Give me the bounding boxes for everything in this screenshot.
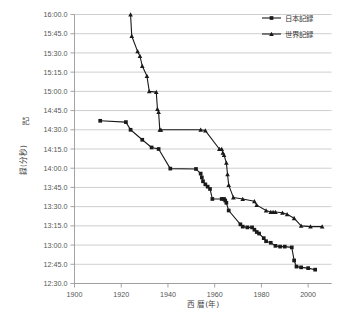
x-tick-label-4: 1980 xyxy=(253,290,269,299)
gridlines xyxy=(75,15,332,284)
data-point-0-6 xyxy=(168,167,172,171)
data-point-0-31 xyxy=(278,245,282,249)
y-tick-label-4: 15:00.0 xyxy=(44,87,68,96)
y-tick-labels: 16:00.015:45.015:30.015:15.015:00.014:45… xyxy=(44,10,68,288)
data-point-0-8 xyxy=(199,172,203,176)
data-point-0-32 xyxy=(283,245,287,249)
data-point-0-28 xyxy=(264,239,268,243)
y-tick-label-6: 14:30.0 xyxy=(44,125,68,134)
y-tick-label-13: 12:45.0 xyxy=(44,260,68,269)
data-point-1-31 xyxy=(292,216,297,220)
data-point-0-18 xyxy=(225,201,229,205)
data-point-1-5 xyxy=(145,74,150,78)
data-point-0-37 xyxy=(306,266,310,270)
data-point-0-5 xyxy=(157,147,161,151)
y-tick-label-1: 15:45.0 xyxy=(44,29,68,38)
data-point-0-33 xyxy=(290,246,294,250)
data-series xyxy=(98,12,324,271)
y-tick-label-11: 13:15.0 xyxy=(44,221,68,230)
data-point-1-4 xyxy=(140,64,145,68)
data-point-0-9 xyxy=(200,176,204,180)
legend-marker-square-icon xyxy=(270,16,274,20)
data-point-0-35 xyxy=(295,265,299,269)
x-tick-label-2: 1940 xyxy=(160,290,176,299)
data-point-0-13 xyxy=(208,187,212,191)
y-axis-title-rest: 録(分秒) xyxy=(18,145,28,175)
data-point-1-2 xyxy=(135,49,140,53)
y-tick-label-2: 15:30.0 xyxy=(44,49,68,58)
data-point-0-7 xyxy=(194,167,198,171)
data-point-0-34 xyxy=(292,259,296,263)
legend-label-1: 世界記録 xyxy=(285,30,314,39)
data-point-0-29 xyxy=(269,241,273,245)
x-tick-labels: 190019201940196019802000 xyxy=(67,290,317,299)
data-point-0-26 xyxy=(257,232,261,236)
y-tick-label-10: 13:30.0 xyxy=(44,202,68,211)
data-point-0-14 xyxy=(211,197,215,201)
data-point-1-8 xyxy=(155,107,160,111)
record-progression-line-chart: 16:00.015:45.015:30.015:15.015:00.014:45… xyxy=(0,0,339,324)
x-tick-label-0: 1900 xyxy=(67,290,83,299)
x-tick-marks xyxy=(71,15,309,288)
data-point-0-36 xyxy=(299,266,303,270)
y-tick-label-12: 13:00.0 xyxy=(44,241,68,250)
y-tick-label-5: 14:45.0 xyxy=(44,106,68,115)
legend-label-0: 日本記録 xyxy=(285,14,314,23)
series-japan-record xyxy=(98,119,317,272)
data-point-0-19 xyxy=(227,209,231,213)
data-point-1-1 xyxy=(129,34,134,38)
data-point-1-3 xyxy=(138,54,143,58)
data-point-1-25 xyxy=(264,208,269,212)
y-tick-label-14: 12:30.0 xyxy=(44,279,68,288)
data-point-0-21 xyxy=(241,225,245,229)
data-point-0-30 xyxy=(274,244,278,248)
data-point-1-18 xyxy=(224,161,229,165)
x-tick-label-1: 1920 xyxy=(113,290,129,299)
series-line-0 xyxy=(100,121,315,270)
y-tick-label-7: 14:15.0 xyxy=(44,145,68,154)
y-tick-label-8: 14:00.0 xyxy=(44,164,68,173)
y-tick-label-0: 16:00.0 xyxy=(44,10,68,19)
x-tick-label-3: 1960 xyxy=(207,290,223,299)
data-point-1-20 xyxy=(226,183,231,187)
data-point-0-3 xyxy=(140,138,144,142)
chart-container: 16:00.015:45.015:30.015:15.015:00.014:45… xyxy=(0,0,339,324)
x-axis-title: 西 暦(年) xyxy=(187,299,219,309)
data-point-0-38 xyxy=(313,268,317,272)
y-axis-title-char-1: 記 xyxy=(22,116,30,126)
x-tick-label-5: 2000 xyxy=(300,290,316,299)
data-point-0-2 xyxy=(129,128,133,132)
y-tick-label-9: 13:45.0 xyxy=(44,183,68,192)
data-point-0-4 xyxy=(150,146,154,150)
data-point-1-19 xyxy=(225,172,230,176)
data-point-0-1 xyxy=(124,120,128,124)
y-tick-label-3: 15:15.0 xyxy=(44,68,68,77)
data-point-0-0 xyxy=(98,119,102,123)
data-point-0-22 xyxy=(246,226,250,230)
chart-legend: 日本記録世界記録 xyxy=(258,9,336,45)
series-line-1 xyxy=(131,15,323,227)
